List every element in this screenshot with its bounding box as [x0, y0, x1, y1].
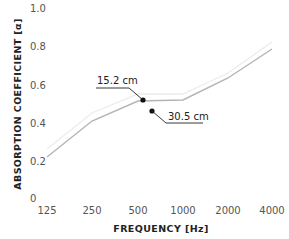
- x-tick: 500: [128, 205, 147, 216]
- annotation-15-2cm: 15.2 cm: [96, 75, 146, 103]
- annotation-30-5cm: 30.5 cm: [149, 108, 208, 123]
- annotation-label: 15.2 cm: [97, 75, 138, 86]
- y-tick: 0: [30, 193, 36, 204]
- y-tick: 0.4: [30, 118, 46, 129]
- marker-dot: [140, 97, 145, 102]
- x-tick: 4000: [259, 205, 284, 216]
- series-30-5cm-line: [47, 42, 272, 149]
- y-tick: 0.2: [30, 156, 46, 167]
- x-tick: 1000: [170, 205, 195, 216]
- absorption-chart: 0 0.2 0.4 0.6 0.8 1.0 125 250 500 1000 2…: [0, 0, 289, 239]
- x-axis-ticks: 125 250 500 1000 2000 4000: [37, 205, 284, 216]
- x-tick: 125: [37, 205, 56, 216]
- annotation-label: 30.5 cm: [168, 111, 209, 122]
- y-tick: 0.8: [30, 41, 46, 52]
- y-axis-ticks: 0 0.2 0.4 0.6 0.8 1.0: [30, 3, 46, 204]
- x-tick: 250: [82, 205, 101, 216]
- y-tick: 0.6: [30, 80, 46, 91]
- x-tick: 2000: [215, 205, 240, 216]
- y-axis-title: ABSORPTION COEFFICIENT [α]: [12, 18, 23, 190]
- y-tick: 1.0: [30, 3, 46, 14]
- x-axis-title: FREQUENCY [Hz]: [113, 223, 208, 234]
